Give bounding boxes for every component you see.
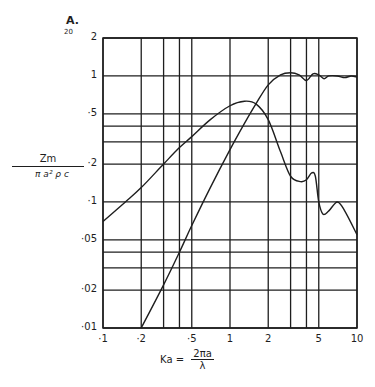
y-tick-label: ·01 xyxy=(67,321,97,332)
x-tick-label: ·2 xyxy=(129,333,153,344)
y-tick-label: 1 xyxy=(67,69,97,80)
x-tick-label: ·1 xyxy=(91,333,115,344)
x-tick-label: 5 xyxy=(307,333,331,344)
y-tick-label: ·05 xyxy=(67,233,97,244)
plot-area xyxy=(0,0,375,387)
y-tick-label: 2 xyxy=(67,31,97,42)
x-tick-label: 1 xyxy=(218,333,242,344)
x-tick-label: 2 xyxy=(256,333,280,344)
y-tick-label: ·02 xyxy=(67,283,97,294)
y-tick-label: ·1 xyxy=(67,195,97,206)
x-tick-label: 10 xyxy=(345,333,369,344)
y-tick-label: ·5 xyxy=(67,107,97,118)
x-tick-label: ·5 xyxy=(180,333,204,344)
y-tick-label: ·2 xyxy=(67,157,97,168)
